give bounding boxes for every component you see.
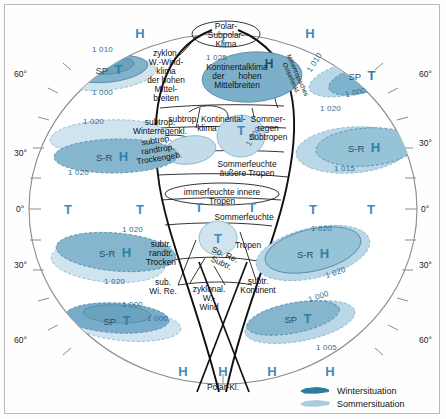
zone-label-subtr-randtr-trocken: subtr. randtr. Trocken — [146, 240, 176, 267]
summer-swatch-icon — [300, 400, 330, 408]
cell-label-t: T — [115, 62, 123, 77]
latitude-label-right-60s: 60° — [419, 335, 432, 345]
cell-label-sp: SP — [103, 316, 116, 327]
pressure-marker-t: T — [136, 202, 144, 217]
cell-label-h: H — [119, 149, 128, 164]
zone-label-polar-kl: Polar-Kl. — [207, 383, 239, 392]
cell-label-sr-h-sw: S-R H — [99, 243, 131, 261]
diagram-page: 60° 30° 0° 30° 60° 60° 30° 0° 30° 60° 1 … — [0, 0, 446, 419]
cell-label-h: H — [371, 140, 380, 155]
pressure-marker-t: T — [64, 202, 72, 217]
zone-label-sommerregen-subtropen: Sommer- regen Subtropen — [249, 115, 288, 142]
cell-label-sp: SP — [95, 65, 108, 76]
zone-label-sommerfeuchte-aeussere: Sommerfeuchte äußere Tropen — [217, 160, 276, 178]
cell-label-sp-t-ne: SP T — [348, 66, 375, 84]
pressure-label: 1 020 — [122, 225, 143, 234]
pressure-label: 1 000 — [122, 300, 143, 309]
cell-label-t: T — [368, 68, 376, 83]
pressure-marker-t: T — [309, 202, 317, 217]
cell-label-sp-t-nw: SP T — [95, 60, 122, 78]
cell-label-sp: SP — [348, 71, 361, 82]
legend-item-summer: Sommersituation — [300, 397, 405, 410]
cell-label-sp: SP — [284, 314, 297, 325]
zone-label-sommerfeuchte-sued: Sommerfeuchte — [214, 213, 273, 222]
pressure-label: 1 020 — [104, 277, 125, 286]
pressure-label: 1 025 — [206, 53, 227, 62]
cell-label-t: T — [123, 313, 131, 328]
zone-label-subtr-kontinent: subtr. Kontinent — [240, 277, 275, 295]
pressure-label: 1 000 — [92, 88, 113, 97]
winter-swatch-icon — [300, 387, 330, 395]
zone-label-sub-wi-re: sub. Wi. Re. — [149, 278, 176, 296]
latitude-label-left-60s: 60° — [14, 335, 27, 345]
cell-label-sp-t-sw: SP T — [103, 311, 130, 329]
pressure-label: 1 020 — [83, 117, 104, 126]
latitude-label-right-60n: 60° — [419, 69, 432, 79]
pressure-label: 1 015 — [334, 164, 355, 173]
pressure-marker-h: H — [305, 26, 314, 41]
pressure-label: 1 005 — [316, 343, 337, 352]
latitude-label-left-0: 0° — [16, 204, 24, 214]
zone-label-subtrop-kontinental: subtrop. Kontinental- klima — [168, 115, 245, 133]
cell-label-sr-h-nw: S-R H — [96, 147, 128, 165]
pressure-marker-h: H — [178, 364, 187, 379]
latitude-label-left-30n: 30° — [14, 148, 27, 158]
pressure-marker-h: H — [218, 364, 227, 379]
pressure-marker-h: H — [135, 26, 144, 41]
latitude-label-right-30n: 30° — [419, 138, 432, 148]
zone-label-tropen-sued: Tropen — [235, 241, 261, 250]
legend-item-winter: Wintersituation — [300, 384, 405, 397]
cell-label-t: T — [304, 311, 312, 326]
cell-label-sp-t-se: SP T — [284, 309, 311, 327]
pressure-marker-h: H — [267, 364, 276, 379]
legend-label-winter: Wintersituation — [337, 386, 397, 396]
cell-label-sr-h-ne: S-R H — [348, 138, 380, 156]
pressure-marker-t: T — [367, 202, 375, 217]
pressure-label: 1 020 — [320, 104, 341, 113]
zone-label-zyklonal-w-wind: zyklonal. W.- Wind — [193, 285, 226, 312]
pressure-marker-h: H — [325, 364, 334, 379]
cell-label-sr: S-R — [348, 143, 364, 154]
pressure-marker-t-center-south: T — [214, 231, 222, 246]
pressure-label: 1 010 — [92, 45, 113, 54]
zone-label-polar-subpolar: Polar- Subpolar- Klima — [208, 22, 244, 49]
cell-label-sr-h-se: S-R H — [297, 244, 329, 262]
cell-label-sr: S-R — [96, 152, 112, 163]
latitude-label-left-60n: 60° — [14, 69, 27, 79]
latitude-label-right-30s: 30° — [419, 260, 432, 270]
latitude-label-right-0: 0° — [421, 204, 429, 214]
zone-label-immerfeuchte-innere: immerfeuchte innere Tropen — [184, 188, 260, 206]
pressure-label: 1 020 — [68, 168, 89, 177]
legend: Wintersituation Sommersituation — [300, 384, 405, 410]
zone-label-zyklon-west: zyklon. W.-Wind- klima der hohen Mittel-… — [147, 49, 185, 103]
zone-label-kontinental-hohen: Kontinentalklima der hohen Mittelbreiten — [206, 63, 267, 90]
cell-label-h: H — [320, 246, 329, 261]
latitude-label-left-30s: 30° — [14, 260, 27, 270]
cell-label-h: H — [122, 245, 131, 260]
legend-label-summer: Sommersituation — [337, 399, 405, 409]
pressure-label: 1 000 — [147, 314, 168, 323]
cell-label-sr: S-R — [99, 248, 115, 259]
cell-label-sr: S-R — [297, 249, 313, 260]
pressure-label: 1 020 — [311, 224, 332, 233]
